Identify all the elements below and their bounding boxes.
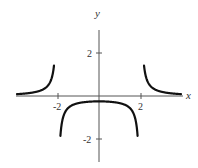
x-tick-label-2: 2 — [138, 101, 143, 112]
function-graph: -2 2 2 -2 x y — [0, 0, 198, 168]
y-tick-label-2: 2 — [87, 48, 92, 59]
y-axis-label: y — [94, 7, 100, 19]
right-branch-curve — [144, 66, 181, 94]
x-axis-label: x — [185, 89, 191, 101]
y-tick-label-neg2: -2 — [83, 134, 91, 145]
left-branch-curve — [17, 66, 54, 94]
x-tick-label-neg2: -2 — [53, 101, 61, 112]
